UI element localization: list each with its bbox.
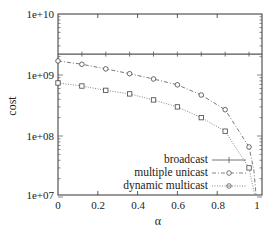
circle-marker (80, 62, 85, 67)
square-marker (223, 129, 227, 133)
circle-marker (127, 71, 132, 76)
legend-label-multiple-unicast: multiple unicast (134, 166, 209, 179)
x-tick-label: 0.4 (131, 199, 145, 211)
cost-vs-alpha-chart: 1e+10 1e+09 1e+08 1e+07 0 0.2 0.4 0.6 0.… (0, 0, 271, 233)
x-tick-label: 0.6 (171, 199, 185, 211)
square-marker (199, 115, 203, 119)
circle-marker (56, 59, 61, 64)
y-tick-label: 1e+08 (26, 130, 54, 142)
circle-marker (103, 67, 108, 72)
square-marker (56, 81, 60, 85)
x-tick-label: 0.2 (91, 199, 105, 211)
y-tick-label: 1e+07 (26, 189, 54, 201)
square-marker (127, 92, 131, 96)
y-axis-label: cost (5, 96, 19, 116)
circle-marker (199, 93, 204, 98)
y-tick-label: 1e+09 (26, 69, 54, 81)
y-tick-label: 1e+10 (26, 8, 54, 20)
square-marker (80, 84, 84, 88)
legend: broadcast multiple unicast dynamic multi… (123, 153, 246, 192)
circle-marker (151, 77, 156, 82)
square-marker (175, 105, 179, 109)
square-marker (104, 88, 108, 92)
x-axis-label: α (155, 214, 162, 228)
x-tick-label: 1 (254, 199, 260, 211)
square-marker (247, 166, 251, 170)
x-tick-label: 0.8 (211, 199, 225, 211)
circle-marker (175, 83, 180, 88)
circle-marker (223, 107, 228, 112)
legend-label-dynamic-multicast: dynamic multicast (123, 179, 208, 192)
square-marker (151, 98, 155, 102)
legend-label-broadcast: broadcast (164, 153, 209, 165)
x-tick-label: 0 (55, 199, 61, 211)
circle-marker (247, 145, 252, 150)
